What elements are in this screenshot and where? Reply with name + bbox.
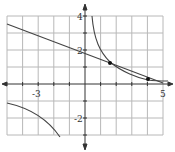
hyperbola-upper-branch (92, 16, 168, 81)
y-axis-arrow-down-icon (83, 144, 87, 150)
x-tick-label-neg3: -3 (32, 89, 41, 99)
intersection-point-1 (108, 61, 112, 65)
curves (7, 16, 168, 137)
x-axis-arrow-left-icon (2, 82, 7, 86)
intersection-point-2 (146, 77, 150, 81)
x-tick-label-5: 5 (160, 89, 166, 99)
graph: -3 5 4 2 -2 (0, 0, 175, 152)
y-axis-arrow-up-icon (83, 4, 87, 10)
x-axis-arrow-right-icon (168, 82, 173, 86)
y-tick-label-neg2: -2 (74, 114, 83, 124)
hyperbola-lower-branch (7, 103, 60, 137)
y-tick-label-4: 4 (77, 12, 83, 22)
y-tick-label-2: 2 (77, 46, 83, 56)
